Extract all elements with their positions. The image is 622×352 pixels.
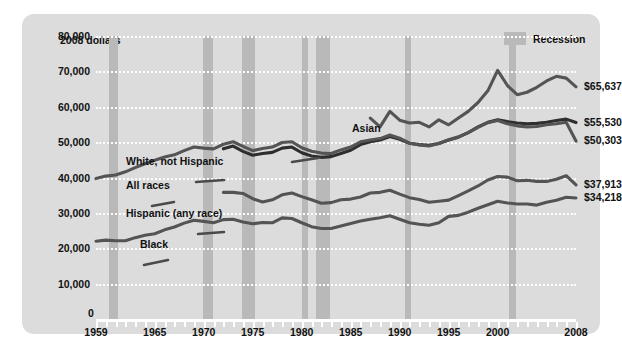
x-axis-tick: [527, 322, 529, 327]
x-axis-tick: [184, 322, 186, 327]
y-axis-tick-label: 70,000: [58, 65, 90, 77]
x-axis-tick: [419, 322, 421, 327]
series-line: [223, 176, 576, 204]
series-lines: [96, 36, 576, 319]
x-axis-tick: [233, 322, 235, 327]
y-axis-tick-label: 30,000: [58, 207, 90, 219]
y-axis-tick-label: 20,000: [58, 242, 90, 254]
x-axis-tick: [282, 322, 284, 327]
x-axis-tick: [556, 322, 558, 327]
x-axis-tick-label: 2008: [564, 326, 587, 338]
y-axis-tick-label: 80,000: [58, 30, 90, 42]
x-axis-tick: [468, 322, 470, 327]
series-line: [96, 121, 576, 179]
y-axis-tick-label: 50,000: [58, 136, 90, 148]
x-axis-tick: [380, 322, 382, 327]
x-axis-tick: [547, 322, 549, 327]
x-axis-tick: [135, 322, 137, 327]
x-axis-tick: [116, 322, 118, 327]
end-value-label: $50,303: [584, 134, 622, 146]
x-axis-tick: [429, 322, 431, 327]
x-axis-tick-label: 2000: [486, 326, 509, 338]
end-value-label: $65,637: [584, 80, 622, 92]
x-axis-tick: [331, 322, 333, 327]
end-value-label: $34,218: [584, 191, 622, 203]
x-axis-tick: [223, 322, 225, 327]
x-axis-tick: [125, 322, 127, 327]
x-axis-tick: [517, 322, 519, 327]
series-line: [370, 70, 576, 127]
y-axis-tick-label: 60,000: [58, 101, 90, 113]
x-axis-tick-label: 1990: [388, 326, 411, 338]
x-axis-origin-label: 0: [88, 307, 94, 319]
y-axis-tick-label: 40,000: [58, 172, 90, 184]
x-axis-tick: [537, 322, 539, 327]
series-label: Black: [140, 238, 168, 250]
x-axis-tick-label: 1980: [290, 326, 313, 338]
label-leader-line: [152, 202, 174, 206]
series-label: White, not Hispanic: [126, 155, 223, 167]
end-value-label: $55,530: [584, 116, 622, 128]
x-axis-tick-label: 1965: [143, 326, 166, 338]
series-label: Asian: [352, 122, 381, 134]
x-axis-tick: [370, 322, 372, 327]
label-leader-line: [198, 232, 224, 234]
x-axis-tick-label: 1959: [84, 326, 107, 338]
x-axis-tick-label: 1985: [339, 326, 362, 338]
label-leader-line: [196, 180, 224, 182]
x-axis-tick: [478, 322, 480, 327]
series-label: Hispanic (any race): [126, 207, 222, 219]
plot-area: AsianWhite, not HispanicAll racesHispani…: [96, 36, 576, 319]
y-axis-tick-labels: 10,00020,00030,00040,00050,00060,00070,0…: [22, 36, 90, 319]
x-axis-tick-label: 1995: [437, 326, 460, 338]
label-leader-line: [144, 260, 168, 265]
y-axis-tick-label: 10,000: [58, 278, 90, 290]
x-axis-tick-label: 1975: [241, 326, 264, 338]
label-leader-line: [292, 158, 318, 162]
x-axis: [96, 319, 576, 322]
series-label: All races: [126, 179, 170, 191]
chart-panel: 2008 dollars Recession 10,00020,00030,00…: [22, 14, 600, 334]
x-axis-tick: [272, 322, 274, 327]
x-axis-tick-label: 1970: [192, 326, 215, 338]
x-axis-tick: [321, 322, 323, 327]
x-axis-tick: [174, 322, 176, 327]
end-value-label: $37,913: [584, 178, 622, 190]
